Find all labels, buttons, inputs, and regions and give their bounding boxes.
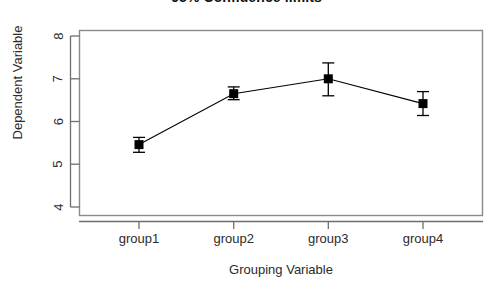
y-tick-label-8: 8 [51,32,66,39]
chart-figure: 95% Confidence limits Dependent Variable… [0,0,493,286]
data-point-group3 [324,74,333,83]
x-tick-label-group3: group3 [308,231,348,246]
y-tick-label-6: 6 [51,118,66,125]
y-axis [71,36,80,207]
x-axis [79,222,483,230]
y-tick-label-4: 4 [51,203,66,210]
plot-panel-border [80,31,483,216]
x-tick-label-group4: group4 [403,231,443,246]
series-line [139,79,423,145]
data-point-group4 [419,99,428,108]
data-point-group2 [229,89,238,98]
y-tick-label-5: 5 [51,161,66,168]
x-tick-label-group1: group1 [119,231,159,246]
y-tick-label-7: 7 [51,75,66,82]
plot-area: 8 7 6 5 4 group1 group2 group3 group4 [0,0,493,286]
x-tick-label-group2: group2 [213,231,253,246]
data-point-group1 [135,140,144,149]
